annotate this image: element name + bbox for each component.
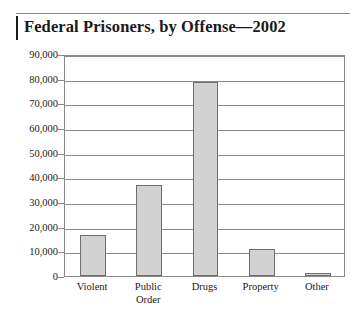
y-axis-tick-label: 40,000: [29, 173, 58, 183]
y-axis-tick-label: 90,000: [29, 50, 58, 60]
chart-title: Federal Prisoners, by Offense—2002: [24, 15, 286, 39]
x-axis-tick-label: Violent: [64, 280, 120, 293]
bar: [193, 82, 219, 276]
x-axis-tick-label: Drugs: [176, 280, 232, 293]
y-axis-tick-label: 30,000: [29, 198, 58, 208]
y-axis-tick-label: 20,000: [29, 223, 58, 233]
x-axis-tick-label: Property: [233, 280, 289, 293]
bar: [136, 185, 162, 276]
y-axis-tick-mark: [58, 277, 64, 278]
bar: [80, 235, 106, 276]
y-axis-tick-label: 50,000: [29, 149, 58, 159]
y-axis-tick-label: 70,000: [29, 99, 58, 109]
bar: [249, 249, 275, 276]
y-axis-tick-label: 60,000: [29, 124, 58, 134]
chart-figure: Federal Prisoners, by Offense—2002 010,0…: [0, 0, 362, 322]
y-axis-labels: 010,00020,00030,00040,00050,00060,00070,…: [0, 55, 58, 277]
y-axis-tick-label: 10,000: [29, 247, 58, 257]
title-top-rule: [16, 13, 350, 14]
bar: [305, 273, 331, 276]
plot-area: [64, 55, 345, 277]
x-axis-tick-label: PublicOrder: [120, 280, 176, 306]
title-left-rule: [16, 16, 18, 40]
y-axis-tick-label: 80,000: [29, 75, 58, 85]
gridline: [65, 56, 344, 57]
x-axis-tick-label: Other: [289, 280, 345, 293]
x-axis-labels: ViolentPublicOrderDrugsPropertyOther: [64, 280, 345, 320]
y-axis-tick-label: 0: [53, 272, 58, 282]
